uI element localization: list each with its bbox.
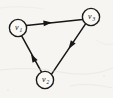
arrowhead-v3-to-v1 [43, 20, 52, 27]
edge-v3-to-v1 [26, 20, 82, 26]
vertex-v3: v 3 [82, 8, 99, 25]
vertex-v1-subscript: 1 [20, 27, 23, 33]
directed-graph-figure: v 1 v 2 v 3 [0, 0, 113, 98]
vertex-v2: v 2 [36, 71, 53, 88]
edge-group [22, 20, 86, 75]
graph-canvas: v 1 v 2 v 3 [0, 0, 113, 98]
edge-v1-to-v2 [22, 36, 42, 72]
vertex-v3-label: v [88, 12, 92, 21]
vertex-v2-label: v [42, 75, 46, 84]
vertex-v2-subscript: 2 [47, 79, 50, 85]
edge-v2-to-v3 [52, 24, 86, 74]
vertex-v3-subscript: 3 [92, 16, 96, 22]
arrowhead-group [28, 20, 75, 63]
vertex-v1-label: v [15, 23, 19, 32]
vertex-v1: v 1 [9, 19, 26, 36]
